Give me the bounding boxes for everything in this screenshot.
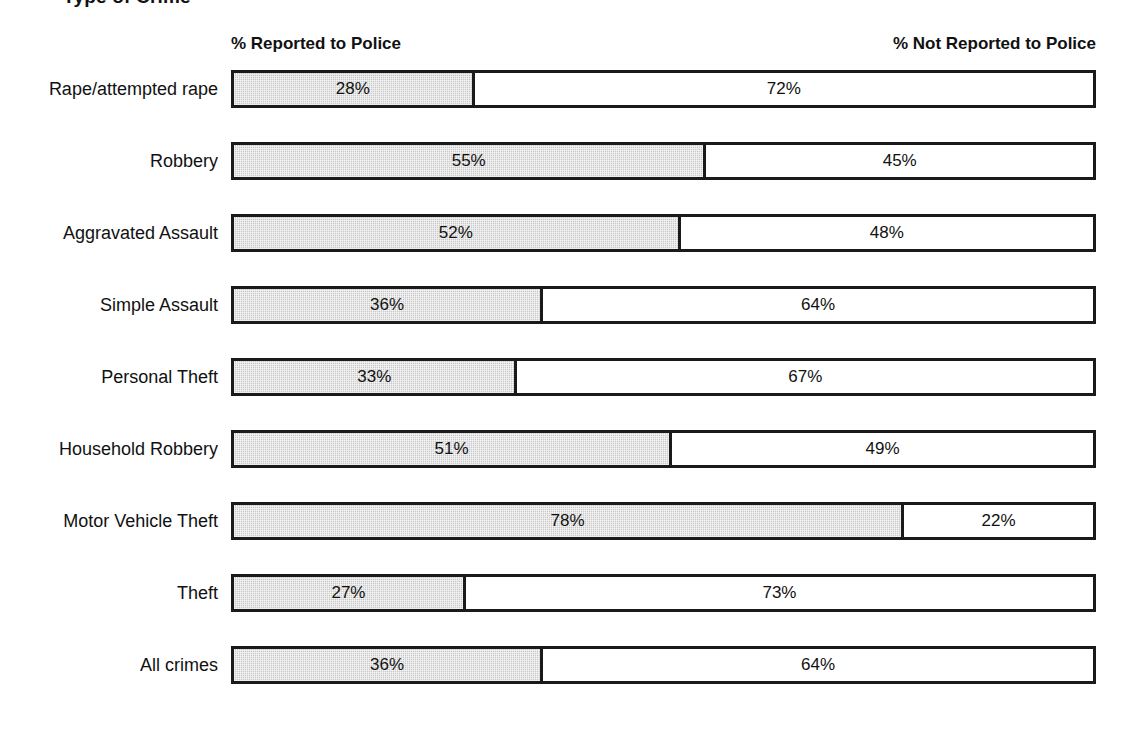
bar-value-not-reported: 45% (883, 151, 917, 171)
bar-track: 51%49% (231, 430, 1096, 468)
bar-row: All crimes36%64% (0, 646, 1126, 684)
column-headers: % Reported to Police % Not Reported to P… (231, 33, 1096, 57)
bar-value-not-reported: 67% (788, 367, 822, 387)
bar-value-reported: 27% (331, 583, 365, 603)
bar-segment-reported: 28% (234, 73, 475, 105)
bar-track: 36%64% (231, 646, 1096, 684)
bar-row-label: Aggravated Assault (0, 214, 218, 252)
bar-value-reported: 36% (370, 655, 404, 675)
stacked-bar-chart: Rape/attempted rape28%72%Robbery55%45%Ag… (0, 70, 1126, 710)
bar-row: Household Robbery51%49% (0, 430, 1126, 468)
bar-row: Motor Vehicle Theft78%22% (0, 502, 1126, 540)
bar-row-label: Rape/attempted rape (0, 70, 218, 108)
bar-track: 52%48% (231, 214, 1096, 252)
bar-row: Personal Theft33%67% (0, 358, 1126, 396)
bar-track: 55%45% (231, 142, 1096, 180)
bar-value-reported: 52% (439, 223, 473, 243)
bar-row: Theft27%73% (0, 574, 1126, 612)
bar-segment-not-reported: 64% (543, 649, 1093, 681)
bar-row-label: Household Robbery (0, 430, 218, 468)
bar-value-not-reported: 22% (981, 511, 1015, 531)
bar-track: 36%64% (231, 286, 1096, 324)
bar-row-label: Motor Vehicle Theft (0, 502, 218, 540)
bar-value-not-reported: 49% (866, 439, 900, 459)
bar-row-label: Theft (0, 574, 218, 612)
bar-value-reported: 78% (550, 511, 584, 531)
bar-segment-not-reported: 72% (475, 73, 1093, 105)
bar-row: Robbery55%45% (0, 142, 1126, 180)
bar-segment-reported: 36% (234, 649, 543, 681)
bar-segment-reported: 52% (234, 217, 681, 249)
bar-value-not-reported: 48% (870, 223, 904, 243)
bar-segment-reported: 27% (234, 577, 466, 609)
bar-track: 78%22% (231, 502, 1096, 540)
bar-row: Simple Assault36%64% (0, 286, 1126, 324)
bar-segment-not-reported: 73% (466, 577, 1093, 609)
bar-value-reported: 55% (452, 151, 486, 171)
bar-segment-reported: 36% (234, 289, 543, 321)
column-header-reported: % Reported to Police (231, 33, 401, 55)
bar-segment-not-reported: 45% (706, 145, 1093, 177)
bar-row-label: Simple Assault (0, 286, 218, 324)
bar-value-not-reported: 64% (801, 655, 835, 675)
bar-row-label: All crimes (0, 646, 218, 684)
bar-value-reported: 33% (357, 367, 391, 387)
bar-track: 27%73% (231, 574, 1096, 612)
bar-value-not-reported: 73% (762, 583, 796, 603)
bar-row-label: Robbery (0, 142, 218, 180)
bar-segment-reported: 51% (234, 433, 672, 465)
bar-segment-not-reported: 22% (904, 505, 1093, 537)
bar-segment-reported: 78% (234, 505, 904, 537)
bar-segment-not-reported: 49% (672, 433, 1093, 465)
bar-row-label: Personal Theft (0, 358, 218, 396)
bar-value-not-reported: 72% (767, 79, 801, 99)
bar-value-reported: 51% (435, 439, 469, 459)
bar-track: 33%67% (231, 358, 1096, 396)
page-title: Type of Crime (63, 0, 191, 8)
bar-value-not-reported: 64% (801, 295, 835, 315)
bar-segment-reported: 33% (234, 361, 517, 393)
bar-value-reported: 28% (336, 79, 370, 99)
bar-segment-not-reported: 64% (543, 289, 1093, 321)
column-header-not-reported: % Not Reported to Police (893, 33, 1096, 55)
bar-value-reported: 36% (370, 295, 404, 315)
bar-segment-not-reported: 48% (681, 217, 1093, 249)
bar-segment-reported: 55% (234, 145, 706, 177)
bar-row: Rape/attempted rape28%72% (0, 70, 1126, 108)
bar-track: 28%72% (231, 70, 1096, 108)
bar-row: Aggravated Assault52%48% (0, 214, 1126, 252)
bar-segment-not-reported: 67% (517, 361, 1093, 393)
